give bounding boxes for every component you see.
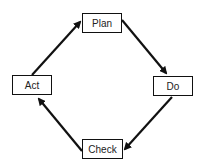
node-check: Check bbox=[82, 139, 123, 159]
arrow-check-to-act bbox=[39, 99, 82, 151]
node-do-label: Do bbox=[167, 81, 180, 92]
node-plan-label: Plan bbox=[92, 18, 112, 29]
node-act-label: Act bbox=[25, 80, 39, 91]
node-act: Act bbox=[12, 75, 52, 95]
node-check-label: Check bbox=[88, 144, 116, 155]
arrow-do-to-check bbox=[125, 97, 172, 149]
pdca-cycle-diagram: Plan Do Check Act bbox=[0, 0, 204, 168]
node-plan: Plan bbox=[82, 13, 122, 33]
arrow-plan-to-do bbox=[122, 20, 166, 73]
arrow-act-to-plan bbox=[32, 22, 80, 75]
node-do: Do bbox=[153, 76, 193, 96]
